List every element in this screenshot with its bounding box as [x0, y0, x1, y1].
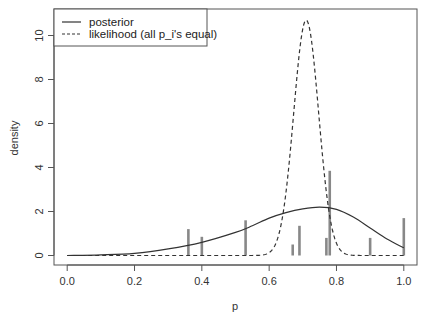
x-tick-label: 1.0 — [396, 275, 411, 287]
density-curves — [67, 20, 404, 255]
legend-label-likelihood: likelihood (all p_i's equal) — [89, 28, 217, 40]
legend-label-posterior: posterior — [89, 16, 134, 28]
y-tick-label: 4 — [33, 164, 45, 170]
y-tick-label: 8 — [33, 76, 45, 82]
chart: 0.00.20.40.60.81.0 0246810 posteriorlike… — [0, 0, 425, 323]
x-tick-label: 0.0 — [60, 275, 75, 287]
posterior-curve — [67, 207, 404, 255]
y-tick-label: 0 — [33, 252, 45, 258]
plot-border — [54, 9, 417, 265]
y-tick-label: 10 — [33, 29, 45, 41]
likelihood-curve — [67, 20, 404, 255]
y-axis: 0246810 — [33, 29, 54, 258]
x-axis: 0.00.20.40.60.81.0 — [60, 265, 412, 287]
x-tick-label: 0.8 — [329, 275, 344, 287]
x-tick-label: 0.4 — [194, 275, 209, 287]
legend: posteriorlikelihood (all p_i's equal) — [54, 9, 217, 46]
x-tick-label: 0.6 — [262, 275, 277, 287]
observed-bars — [188, 171, 403, 256]
x-tick-label: 0.2 — [127, 275, 142, 287]
y-tick-label: 2 — [33, 208, 45, 214]
x-axis-title: p — [232, 300, 238, 312]
y-axis-title: density — [8, 120, 20, 155]
plot-frame — [54, 9, 417, 265]
y-tick-label: 6 — [33, 120, 45, 126]
